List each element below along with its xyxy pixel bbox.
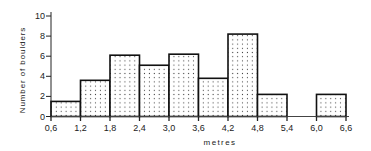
histogram-bar [199,78,229,116]
x-tick-label: 1,2 [74,123,87,133]
x-axis-label: metres [204,138,237,147]
x-tick-label: 3,6 [192,123,205,133]
x-tick-label: 4,2 [222,123,235,133]
histogram-bar [228,34,258,116]
y-axis-label: Number of boulders [18,27,27,113]
x-tick-label: 6,6 [340,123,353,133]
x-tick-label: 1,8 [104,123,117,133]
histogram-bar [140,65,170,116]
y-tick-label: 0 [40,112,45,122]
x-tick-label: 2,4 [133,123,146,133]
histogram-bar [81,80,111,116]
y-tick-label: 8 [40,31,45,41]
x-tick-label: 4,8 [251,123,264,133]
histogram-bar [51,101,81,116]
y-axis-ticks: 0246810 [35,11,51,122]
y-tick-label: 10 [35,11,45,21]
histogram-bars [51,34,346,116]
histogram-bar [169,54,199,116]
histogram-chart: 0246810 0,61,21,82,43,03,64,24,85,46,06,… [0,0,371,151]
x-tick-label: 3,0 [163,123,176,133]
x-tick-label: 5,4 [281,123,294,133]
histogram-bar [317,94,347,116]
x-tick-label: 6,0 [310,123,323,133]
x-axis-ticks: 0,61,21,82,43,03,64,24,85,46,06,6 [45,117,353,134]
x-tick-label: 0,6 [45,123,58,133]
histogram-bar [258,94,288,116]
y-tick-label: 6 [40,51,45,61]
y-tick-label: 2 [40,91,45,101]
y-tick-label: 4 [40,71,45,81]
histogram-bar [110,55,140,116]
